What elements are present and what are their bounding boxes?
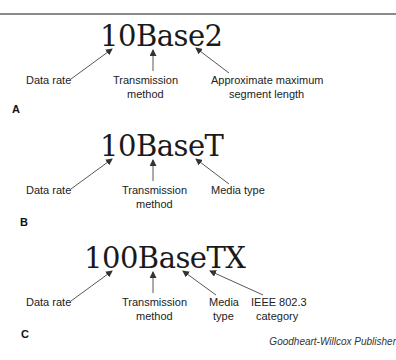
- label-ieee-802-3: IEEE 802.3: [251, 295, 307, 309]
- label-category: category: [256, 309, 298, 323]
- label-media: Media: [209, 295, 239, 309]
- label-method: method: [136, 309, 173, 323]
- label-method: method: [136, 197, 173, 211]
- panel-letter-c: C: [21, 328, 29, 340]
- arrow-b-data-rate: [71, 159, 112, 189]
- term-100basetx: 100BaseTX: [84, 244, 246, 273]
- panel-letter-b: B: [20, 216, 28, 228]
- label-segment-length: segment length: [229, 87, 304, 101]
- label-data-rate: Data rate: [26, 295, 71, 309]
- publisher-credit: Goodheart-Willcox Publisher: [269, 336, 396, 347]
- label-transmission: Transmission: [122, 295, 187, 309]
- label-data-rate: Data rate: [26, 73, 71, 87]
- label-transmission: Transmission: [122, 183, 187, 197]
- term-10baset: 10BaseT: [100, 132, 223, 161]
- label-type: type: [213, 309, 234, 323]
- label-data-rate: Data rate: [26, 183, 71, 197]
- label-approximate-maximum: Approximate maximum: [211, 73, 323, 87]
- label-method: method: [127, 87, 164, 101]
- term-10base2: 10Base2: [100, 22, 223, 51]
- label-transmission: Transmission: [113, 73, 178, 87]
- panel-letter-a: A: [12, 103, 20, 115]
- arrow-c-data-rate: [71, 271, 112, 301]
- arrow-a-data-rate: [71, 49, 112, 79]
- label-media-type: Media type: [211, 183, 265, 197]
